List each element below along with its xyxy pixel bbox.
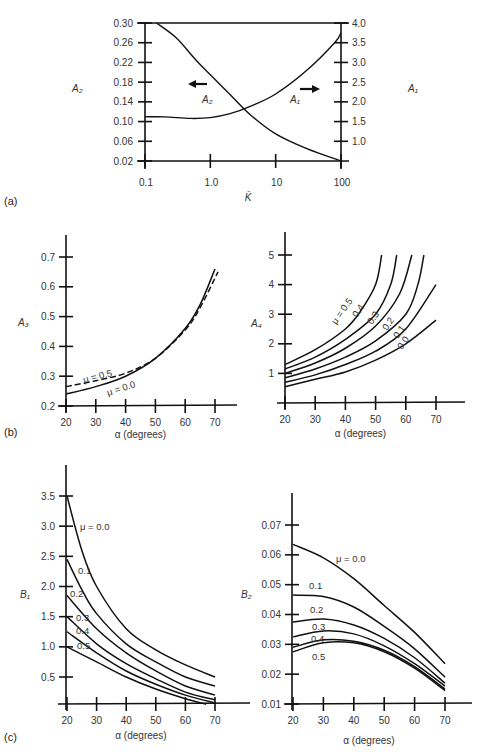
x-tick-label: 60: [400, 414, 412, 425]
curve-label-0-3: 0.3: [76, 612, 89, 623]
x-tick-label: 100: [334, 177, 351, 188]
x-tick-label: 20: [60, 417, 72, 428]
y-tick-label: 0.03: [262, 639, 282, 650]
x-tick-label: 40: [120, 417, 132, 428]
y-tick-label: 3.5: [41, 491, 55, 502]
y-axis-title: A₃: [17, 317, 29, 328]
x-tick-label: 0.1: [139, 177, 153, 188]
y-tick-label: 0.4: [41, 341, 55, 352]
x-tick-label: 60: [180, 417, 192, 428]
y-tick-label: 1.0: [41, 641, 55, 652]
y-tick-label: 0.04: [262, 609, 282, 620]
x-tick-label: 50: [370, 414, 382, 425]
x-tick-label: 20: [61, 715, 73, 726]
x-tick-label: 40: [121, 715, 133, 726]
x-tick-label: 30: [90, 417, 102, 428]
arrow-left-head-icon: [188, 80, 196, 88]
y-tick-label: 1: [268, 368, 274, 379]
x-axis: [58, 405, 237, 406]
panel-label-a: (a): [4, 195, 17, 207]
x-tick-label: 50: [379, 715, 391, 726]
y-tick-label-left: 0.22: [114, 57, 134, 68]
chart-a-a1-a2-vs-k: 0.300.260.220.180.140.100.060.024.03.53.…: [71, 18, 418, 204]
curve-label-a1: A₁: [289, 94, 300, 105]
curve-label-0-2: 0.2: [70, 588, 83, 599]
chart-c-b1-vs-alpha: 3.53.02.52.01.51.00.5203040506070B₁α (de…: [20, 465, 250, 741]
x-axis-title: α (degrees): [115, 730, 166, 741]
y-axis-title: B₁: [20, 589, 30, 600]
x-tick-label: 30: [310, 414, 322, 425]
x-tick-label: 10: [271, 177, 283, 188]
curve-label-0-4: 0.4: [311, 633, 324, 644]
y-tick-label: 5: [268, 250, 274, 261]
y-tick-label-right: 2.5: [352, 77, 366, 88]
x-tick-label: 70: [439, 715, 451, 726]
y-tick-label-left: 0.26: [114, 37, 134, 48]
x-axis-title: α (degrees): [335, 428, 386, 439]
x-tick-label: 30: [318, 715, 330, 726]
curve-label-a2: A₂: [201, 94, 213, 105]
y-tick-label: 0.06: [262, 549, 282, 560]
x-tick-label: 70: [430, 414, 442, 425]
y-tick-label-right: 1.5: [352, 116, 366, 127]
curve-label-0-0: μ = 0.0: [80, 521, 110, 532]
curve-label-0-0: μ = 0.0: [336, 553, 366, 564]
y-tick-label: 0.2: [41, 401, 55, 412]
x-tick-label: 20: [279, 414, 291, 425]
y-tick-label: 2: [268, 338, 274, 349]
x-tick-label: 1.0: [204, 177, 218, 188]
curve-label-0-3: 0.3: [312, 621, 325, 632]
y-axis-title-left: A₂: [71, 83, 83, 94]
y-tick-label-left: 0.02: [114, 156, 134, 167]
y-tick-label: 0.01: [262, 699, 282, 710]
x-tick-label: 30: [91, 715, 103, 726]
y-tick-label: 0.05: [262, 579, 282, 590]
x-tick-label: 40: [340, 414, 352, 425]
y-tick-label: 0.07: [262, 520, 282, 531]
curve-0-5: [66, 272, 218, 387]
x-tick-label: 50: [150, 715, 162, 726]
y-tick-label-left: 0.18: [114, 77, 134, 88]
curve-a1: [145, 33, 341, 119]
y-tick-label: 3.0: [41, 521, 55, 532]
curve-label-0-1: 0.1: [78, 565, 91, 576]
chart-b-a4-vs-alpha: 54321203040506070A₄α (degrees)μ = 0.50.4…: [250, 232, 465, 439]
panel-label-c: (c): [4, 731, 17, 743]
x-tick-label: 40: [348, 715, 360, 726]
chart-c-b2-vs-alpha: 0.070.060.050.040.030.020.01203040506070…: [241, 493, 472, 746]
x-tick-label: 50: [150, 417, 162, 428]
y-axis-title: A₄: [250, 318, 262, 329]
y-tick-label-right: 3.0: [352, 57, 366, 68]
y-tick-label-left: 0.06: [114, 136, 134, 147]
y-tick-label: 4: [268, 279, 274, 290]
y-tick-label-left: 0.14: [114, 96, 134, 107]
chart-b-a3-vs-alpha: 0.70.60.50.40.30.2203040506070A₃α (degre…: [17, 235, 237, 440]
y-tick-label: 0.3: [41, 371, 55, 382]
x-tick-label: 60: [409, 715, 421, 726]
y-tick-label: 3: [268, 309, 274, 320]
figure: 0.300.260.220.180.140.100.060.024.03.53.…: [0, 0, 483, 754]
y-tick-label-right: 2.0: [352, 96, 366, 107]
y-tick-label-right: 1.0: [352, 136, 366, 147]
y-tick-label: 0.6: [41, 281, 55, 292]
x-axis-title: α (degrees): [343, 735, 394, 746]
curve-label-0-1: 0.1: [309, 580, 322, 591]
curve-0-5: [293, 642, 445, 691]
x-tick-label: 70: [209, 417, 221, 428]
y-tick-label-right: 4.0: [352, 18, 366, 29]
arrow-right-head-icon: [312, 85, 320, 93]
curve-label-0-5: 0.5: [77, 640, 90, 651]
y-tick-label-left: 0.10: [114, 116, 134, 127]
y-tick-label: 0.02: [262, 669, 282, 680]
curve-label-mu-0-0: μ = 0.0: [105, 378, 136, 398]
x-tick-label: 60: [180, 715, 192, 726]
x-axis-title: K̄: [245, 191, 253, 203]
curve-label-0-2: 0.2: [310, 604, 323, 615]
y-tick-label-right: 3.5: [352, 37, 366, 48]
y-tick-label: 0.5: [41, 672, 55, 683]
y-tick-label: 2.0: [41, 581, 55, 592]
y-tick-label: 2.5: [41, 551, 55, 562]
x-axis-title: α (degrees): [115, 429, 166, 440]
y-tick-label: 0.5: [41, 311, 55, 322]
x-tick-label: 20: [287, 715, 299, 726]
